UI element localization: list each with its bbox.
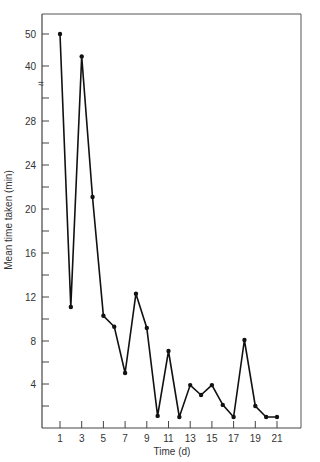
x-tick-label: 17 [228, 433, 240, 444]
data-point [145, 326, 149, 330]
y-tick-label: 4 [30, 379, 36, 390]
data-point [112, 325, 116, 329]
data-point [221, 403, 225, 407]
x-tick-label: 21 [271, 433, 283, 444]
data-point [199, 393, 203, 397]
data-point [210, 383, 214, 387]
data-point [177, 415, 181, 419]
data-point [253, 404, 257, 408]
x-axis-label: Time (d) [154, 446, 191, 457]
data-point [90, 195, 94, 199]
data-point [188, 383, 192, 387]
line-chart: 4812162024284050≈13579111315171921Time (… [0, 0, 320, 462]
data-point [231, 415, 235, 419]
axis-break-symbol: ≈ [38, 78, 44, 89]
x-tick-label: 19 [250, 433, 262, 444]
data-point [275, 415, 279, 419]
data-point [58, 32, 62, 36]
x-tick-label: 5 [101, 433, 107, 444]
data-point [69, 305, 73, 309]
data-point [134, 292, 138, 296]
y-tick-label: 50 [25, 29, 37, 40]
y-tick-label: 20 [25, 204, 37, 215]
data-point [242, 338, 246, 342]
data-line [60, 34, 277, 417]
x-tick-label: 9 [144, 433, 150, 444]
y-tick-label: 24 [25, 160, 37, 171]
y-tick-label: 40 [25, 61, 37, 72]
y-tick-label: 8 [30, 336, 36, 347]
x-tick-label: 3 [79, 433, 85, 444]
x-tick-label: 15 [206, 433, 218, 444]
data-point [166, 349, 170, 353]
y-tick-label: 16 [25, 248, 37, 259]
x-tick-label: 7 [122, 433, 128, 444]
x-tick-label: 1 [57, 433, 63, 444]
data-point [101, 314, 105, 318]
data-point [155, 414, 159, 418]
data-point [80, 54, 84, 58]
y-tick-label: 12 [25, 292, 37, 303]
data-point [264, 415, 268, 419]
x-tick-label: 11 [163, 433, 174, 444]
y-axis-label: Mean time taken (min) [3, 170, 14, 269]
data-point [123, 371, 127, 375]
x-tick-label: 13 [185, 433, 197, 444]
y-tick-label: 28 [25, 116, 37, 127]
